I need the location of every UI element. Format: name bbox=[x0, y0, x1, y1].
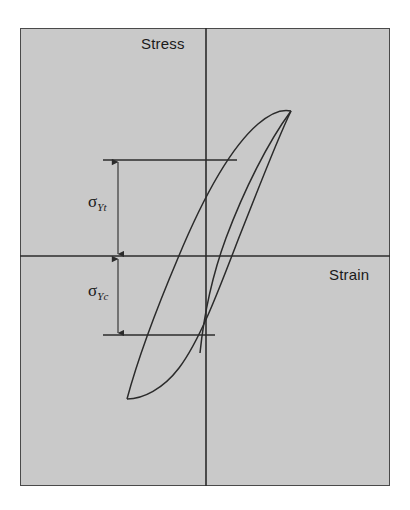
sigma-subscript-compressive: Yc bbox=[97, 290, 109, 302]
hysteresis-loop-unloading-branch bbox=[127, 111, 291, 399]
sigma-subscript-tensile: Yt bbox=[97, 201, 107, 213]
hysteresis-loop-loading-branch bbox=[127, 110, 291, 399]
hysteresis-diagram: Stress Strain σYt σYc bbox=[0, 0, 410, 510]
sigma-symbol-compressive: σ bbox=[88, 281, 97, 300]
hysteresis-loop-inner-branch bbox=[200, 111, 291, 353]
tensile-yield-label: σYt bbox=[88, 192, 107, 213]
stress-axis-label: Stress bbox=[141, 35, 185, 52]
strain-axis-label: Strain bbox=[329, 266, 369, 283]
diagram-canvas bbox=[0, 0, 410, 510]
sigma-symbol-tensile: σ bbox=[88, 192, 97, 211]
compressive-yield-label: σYc bbox=[88, 281, 109, 302]
